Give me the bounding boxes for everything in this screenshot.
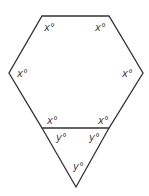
angle-label-tri-apex: y° bbox=[72, 161, 84, 172]
angle-label-hex-top-right: x° bbox=[94, 22, 106, 33]
angle-label-hex-top-left: x° bbox=[43, 22, 55, 33]
angle-label-hex-left: x° bbox=[16, 68, 28, 79]
angle-label-tri-right: y° bbox=[88, 132, 100, 143]
angle-label-hex-right: x° bbox=[121, 68, 133, 79]
geometry-diagram: x° x° x° x° x° x° y° y° y° bbox=[0, 0, 149, 196]
angle-label-tri-left: y° bbox=[55, 132, 67, 143]
angle-label-hex-bottom-left: x° bbox=[46, 115, 58, 126]
angle-label-hex-bottom-right: x° bbox=[97, 115, 109, 126]
